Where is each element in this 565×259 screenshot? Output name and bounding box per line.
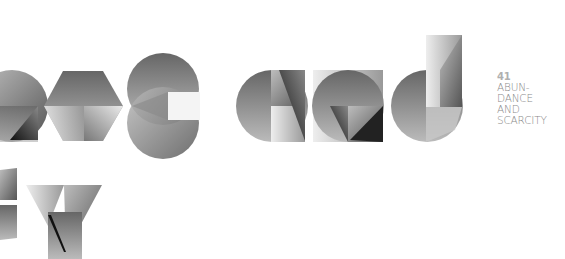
geometric-lettering-artwork [0, 0, 565, 259]
glyph-hexagon [44, 71, 123, 141]
chapter-caption: 41 ABUN- DANCE AND SCARCITY [497, 71, 547, 126]
glyph-a-2 [312, 70, 384, 142]
glyph-y [26, 185, 102, 259]
glyph-a-1 [236, 70, 308, 142]
glyph-s-fragment [0, 168, 17, 240]
glyph-a-fragment [0, 70, 48, 142]
chapter-title-line-4: SCARCITY [497, 115, 547, 126]
glyph-d [391, 35, 463, 142]
glyph-double-circle [127, 53, 200, 159]
